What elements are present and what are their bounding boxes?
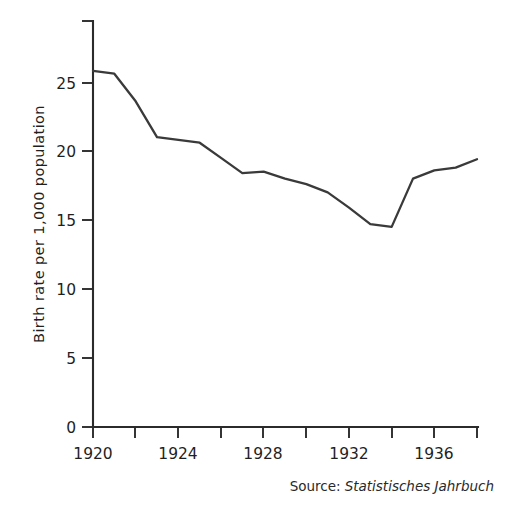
- y-tick-label-5: 5: [66, 350, 76, 368]
- x-tick-label-1924: 1924: [158, 445, 197, 463]
- y-tick-label-0: 0: [66, 419, 76, 437]
- source-label: Source:: [290, 478, 341, 494]
- source-value: Statistisches Jahrbuch: [341, 478, 494, 494]
- x-axis-ticks: [93, 427, 477, 438]
- y-tick-label-10: 10: [56, 281, 76, 299]
- y-tick-label-15: 15: [56, 212, 76, 230]
- x-tick-label-1920: 1920: [73, 445, 112, 463]
- x-axis-tick-labels: 1920 1924 1928 1932 1936: [73, 445, 453, 463]
- y-tick-label-20: 20: [56, 143, 76, 161]
- source-note: Source:Statistisches Jahrbuch: [290, 478, 494, 494]
- chart-figure: 25 20 15 10 5 0 1920 1924 1928 1932 19: [0, 0, 508, 510]
- y-axis-ticks: [82, 21, 93, 427]
- y-axis-label: Birth rate per 1,000 population: [31, 105, 47, 343]
- x-tick-label-1936: 1936: [414, 445, 453, 463]
- x-tick-label-1928: 1928: [243, 445, 282, 463]
- birth-rate-line: [93, 71, 477, 227]
- y-tick-label-25: 25: [56, 75, 76, 93]
- x-tick-label-1932: 1932: [329, 445, 368, 463]
- line-chart: 25 20 15 10 5 0 1920 1924 1928 1932 19: [0, 0, 508, 510]
- y-axis-tick-labels: 25 20 15 10 5 0: [56, 75, 76, 437]
